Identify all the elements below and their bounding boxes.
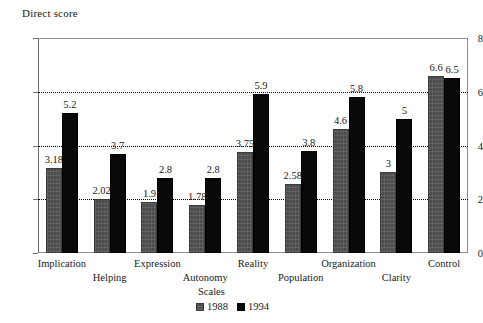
- data-label: 3.18: [45, 154, 63, 165]
- bar-implication-1988: [46, 168, 62, 253]
- data-label: 5.9: [254, 80, 267, 91]
- data-label: 3.8: [302, 137, 315, 148]
- data-label: 2.8: [207, 164, 220, 175]
- data-label: 3: [386, 158, 391, 169]
- y-tick-mark: [33, 253, 38, 254]
- x-category-label-implication: Implication: [38, 258, 86, 269]
- data-label: 3.7: [111, 140, 124, 151]
- data-label: 1.78: [188, 191, 206, 202]
- y-tick-mark: [33, 92, 38, 93]
- bar-group: [141, 38, 173, 253]
- data-label: 6.6: [430, 62, 443, 73]
- data-label: 4.6: [334, 115, 347, 126]
- y-axis-title: Direct score: [22, 7, 78, 19]
- bar-autonomy-1988: [189, 205, 205, 253]
- data-label: 6.5: [446, 64, 459, 75]
- x-axis-title: Scales: [198, 286, 225, 297]
- bar-reality-1994: [253, 94, 269, 253]
- legend-item-1988[interactable]: 1988: [196, 301, 228, 312]
- x-category-label-autonomy: Autonomy: [183, 272, 228, 283]
- x-category-label-expression: Expression: [134, 258, 181, 269]
- bar-group: [380, 38, 412, 253]
- bar-group: [189, 38, 221, 253]
- bar-chart: Direct score 02468 3.185.2Implication2.0…: [0, 0, 483, 323]
- bar-organization-1988: [333, 129, 349, 253]
- bar-clarity-1994: [396, 119, 412, 253]
- bar-population-1988: [285, 184, 301, 253]
- bar-control-1988: [428, 76, 444, 253]
- x-category-label-helping: Helping: [93, 272, 127, 283]
- x-category-label-organization: Organization: [321, 258, 376, 269]
- bar-helping-1988: [94, 199, 110, 253]
- y-tick-label: 8: [453, 33, 483, 44]
- data-label: 3.75: [236, 138, 254, 149]
- bar-group: [46, 38, 78, 253]
- data-label: 5.2: [63, 99, 76, 110]
- legend-swatch-icon: [237, 303, 245, 311]
- data-label: 5.8: [350, 83, 363, 94]
- x-category-label-reality: Reality: [238, 258, 268, 269]
- bar-autonomy-1994: [205, 178, 221, 253]
- bar-reality-1988: [237, 152, 253, 253]
- bar-clarity-1988: [380, 172, 396, 253]
- bar-group: [333, 38, 365, 253]
- x-category-label-clarity: Clarity: [382, 272, 411, 283]
- data-label: 2.8: [159, 164, 172, 175]
- bar-expression-1994: [157, 178, 173, 253]
- chart-legend: 19881994: [196, 301, 269, 312]
- y-tick-label: 2: [453, 194, 483, 205]
- x-category-label-control: Control: [428, 258, 460, 269]
- bar-expression-1988: [141, 202, 157, 253]
- data-label: 5: [402, 105, 407, 116]
- legend-label: 1994: [248, 301, 269, 312]
- y-tick-label: 6: [453, 86, 483, 97]
- bar-population-1994: [301, 151, 317, 253]
- data-label: 2.02: [92, 185, 110, 196]
- y-tick-mark: [33, 199, 38, 200]
- y-tick-mark: [33, 38, 38, 39]
- data-label: 2.58: [284, 170, 302, 181]
- y-tick-mark: [33, 146, 38, 147]
- y-tick-label: 4: [453, 140, 483, 151]
- data-label: 1.9: [143, 188, 156, 199]
- x-category-label-population: Population: [278, 272, 324, 283]
- legend-label: 1988: [207, 301, 228, 312]
- legend-item-1994[interactable]: 1994: [237, 301, 269, 312]
- bar-control-1994: [444, 78, 460, 253]
- y-tick-label: 0: [453, 248, 483, 259]
- legend-swatch-icon: [196, 303, 204, 311]
- bar-organization-1994: [349, 97, 365, 253]
- bar-implication-1994: [62, 113, 78, 253]
- bar-helping-1994: [110, 154, 126, 253]
